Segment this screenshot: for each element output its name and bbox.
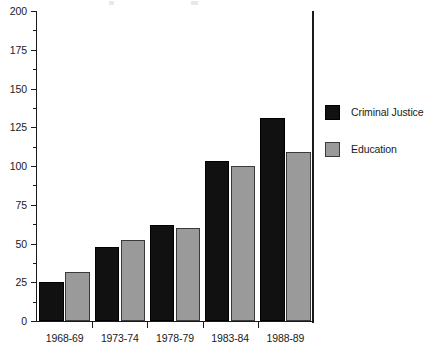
y-tick-mark [31,205,37,206]
x-tick-label-1978-79: 1978-79 [156,332,194,344]
y-minor-tick-mark [33,302,37,303]
y-tick-mark [31,89,37,90]
y-tick-label: 125 [10,121,27,133]
bar [260,118,285,321]
bar [39,282,64,321]
bar [231,166,256,321]
y-tick-mark [31,50,37,51]
y-tick-mark [31,11,37,12]
scan-artifact [95,1,275,5]
bar [65,272,90,321]
y-tick-mark [31,127,37,128]
x-tick-label-1983-84: 1983-84 [211,332,249,344]
x-separator-tick [258,321,259,328]
legend-item-education: Education [325,141,433,157]
bar [150,225,175,321]
x-tick-label-1973-74: 1973-74 [101,332,139,344]
y-tick-mark [31,244,37,245]
x-separator-tick [147,321,148,328]
y-tick-mark [31,321,37,322]
x-tick-label-1988-89: 1988-89 [266,332,304,344]
bar [205,161,230,321]
y-minor-tick-mark [33,108,37,109]
plot-area: 02550751001251501752001968-691973-741978… [36,11,313,322]
legend-item-criminal-justice: Criminal Justice [325,104,433,120]
y-tick-label: 0 [21,315,27,327]
y-tick-label: 75 [16,199,27,211]
y-minor-tick-mark [33,185,37,186]
legend-label-criminal-justice: Criminal Justice [351,106,424,118]
bar [286,152,311,321]
bar [95,247,120,321]
y-tick-mark [31,282,37,283]
y-tick-label: 175 [10,44,27,56]
y-minor-tick-mark [33,224,37,225]
bar [176,228,201,321]
x-tick-label-1968-69: 1968-69 [46,332,84,344]
bar [121,240,146,321]
y-minor-tick-mark [33,263,37,264]
legend-swatch-education [325,142,340,157]
x-separator-tick [92,321,93,328]
y-tick-label: 100 [10,160,27,172]
chart-legend: Criminal Justice Education [325,104,433,178]
y-tick-mark [31,166,37,167]
y-tick-label: 200 [10,5,27,17]
y-minor-tick-mark [33,69,37,70]
y-minor-tick-mark [33,147,37,148]
y-tick-label: 150 [10,83,27,95]
legend-label-education: Education [351,143,397,155]
x-separator-tick [203,321,204,328]
y-minor-tick-mark [33,30,37,31]
bar-chart-figure: 02550751001251501752001968-691973-741978… [0,0,434,355]
y-tick-label: 50 [16,238,27,250]
plot-right-border [312,11,314,323]
legend-swatch-criminal-justice [325,105,340,120]
y-tick-label: 25 [16,276,27,288]
